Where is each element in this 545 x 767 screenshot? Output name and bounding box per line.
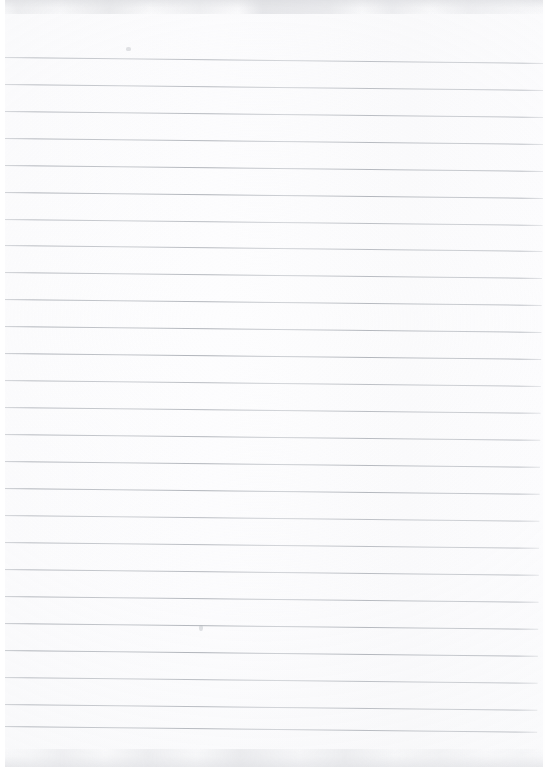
ruled-line [2,219,543,226]
ruled-line [0,677,538,684]
ruled-line [0,326,541,333]
ruled-line [0,434,540,441]
ruled-line [0,407,541,414]
ruled-line [0,515,539,522]
ruled-line [1,272,542,279]
ruled-line [0,569,539,576]
ruled-line [0,704,537,711]
ruled-line [0,726,537,733]
ruled-line [1,299,542,306]
ruled-line [0,542,539,549]
ruled-line [2,192,543,199]
ruled-line [0,623,538,630]
ruled-line [0,650,538,657]
ruled-line [2,165,543,172]
ruled-line [0,353,541,360]
ruled-lines-layer [0,0,545,767]
ruled-line [0,461,540,468]
ruled-line [1,245,542,252]
ruled-line [0,488,540,495]
ruled-line [2,138,543,145]
scanned-page: A scanned sheet of blank ruled notebook … [0,0,545,767]
ruled-line [0,596,539,603]
ruled-line [3,84,544,91]
ruled-line [3,57,544,64]
ruled-line [3,111,544,118]
ruled-line [0,380,541,387]
